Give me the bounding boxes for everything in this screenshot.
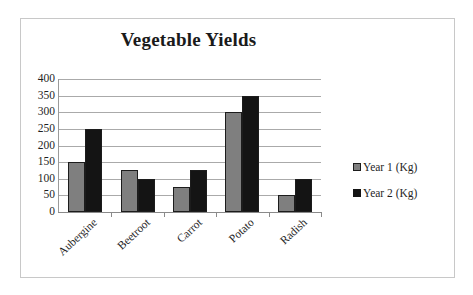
bar [295,179,312,212]
bar [68,162,85,212]
y-axis-tick-label: 400 [21,73,55,85]
y-axis-tick-label: 150 [21,156,55,168]
bar [190,170,207,212]
legend-item[interactable]: Year 1 (Kg) [353,161,453,173]
legend-item[interactable]: Year 2 (Kg) [353,187,453,199]
y-axis-tick-label: 200 [21,140,55,152]
square-marker-gray-icon [353,163,361,171]
x-axis-category-label: Carrot [175,216,205,245]
square-marker-black-icon [353,189,361,197]
bar [173,187,190,212]
y-axis-tick-label: 250 [21,123,55,135]
x-axis-category-label: Potato [227,216,257,245]
y-axis-tick-label: 350 [21,90,55,102]
legend-item-label: Year 1 (Kg) [363,161,417,173]
bars-layer [59,79,321,212]
y-axis-tick-label: 300 [21,106,55,118]
bar [242,96,259,212]
y-axis-tick-label: 0 [21,206,55,218]
chart-frame: Vegetable Yields 40035030025020015010050… [20,18,455,278]
bar [121,170,138,212]
y-axis-tick-label: 100 [21,173,55,185]
legend-item-label: Year 2 (Kg) [363,187,417,199]
x-axis-category-label: Radish [277,216,309,247]
plot-area [59,79,321,212]
x-axis-category-label: Aubergine [56,216,100,258]
chart-title: Vegetable Yields [21,29,356,51]
bar [138,179,155,212]
chart-legend: Year 1 (Kg)Year 2 (Kg) [353,161,453,213]
x-axis-category-labels: AubergineBeetrootCarrotPotatoRadish [59,212,359,274]
y-axis-tick-label: 50 [21,189,55,201]
y-axis-tick-labels: 400350300250200150100500 [17,79,55,212]
bar [85,129,102,212]
x-axis-category-label: Beetroot [115,216,152,252]
bar [278,195,295,212]
bar [225,112,242,212]
